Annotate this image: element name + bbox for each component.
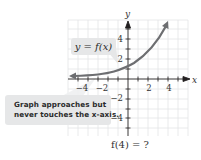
svg-text:4: 4 xyxy=(118,34,123,44)
curve-left-arrow-icon xyxy=(69,73,76,80)
y-axis-label: y xyxy=(124,9,131,19)
x-axis-arrow-icon xyxy=(183,77,190,82)
svg-text:−4: −4 xyxy=(76,83,89,93)
asymptote-note-callout: Graph approaches but never touches the x… xyxy=(5,95,111,125)
svg-text:4: 4 xyxy=(166,83,171,93)
svg-text:2: 2 xyxy=(146,83,151,93)
svg-text:2: 2 xyxy=(118,54,123,64)
note-line-1: Graph approaches but xyxy=(14,100,111,110)
svg-text:−2: −2 xyxy=(96,83,109,93)
x-axis-label: x xyxy=(192,75,197,85)
note-line-2: never touches the x-axis. xyxy=(14,110,111,120)
curve-label-callout: y = f(x) xyxy=(71,38,116,55)
svg-text:−2: −2 xyxy=(110,93,123,103)
question-caption: f(4) = ? xyxy=(100,139,160,150)
exponential-graph: −4 −2 2 4 4 2 −2 −4 x y xyxy=(0,0,201,160)
y-axis-arrow-icon xyxy=(126,21,131,28)
